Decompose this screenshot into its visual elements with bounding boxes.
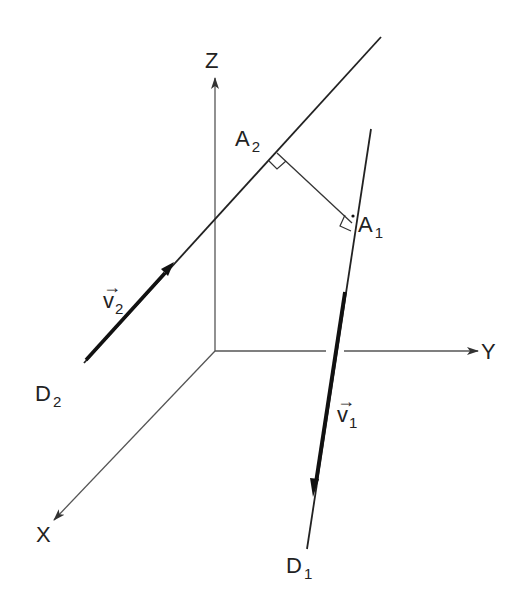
line-d2 <box>84 37 381 363</box>
vector-v1-segment <box>316 292 345 482</box>
vector-v1-label: →v1 <box>337 404 357 426</box>
vector-v2-segment <box>86 273 165 360</box>
vector-v2-label: →v2 <box>103 290 123 312</box>
diagram-svg <box>0 0 521 608</box>
point-a1-label: A1 <box>358 214 383 236</box>
y-axis-label: Y <box>481 341 496 363</box>
z-axis-label: Z <box>205 50 218 72</box>
diagram-canvas: Z Y X A2 A1 D2 D1 →v2 →v1 <box>0 0 521 608</box>
right-angle-marker-a2 <box>269 161 286 169</box>
x-axis <box>54 351 215 520</box>
x-axis-label: X <box>36 524 51 546</box>
line-d1 <box>307 129 371 549</box>
line-d2-label: D2 <box>35 383 61 405</box>
common-perpendicular <box>269 153 355 231</box>
point-a2-label: A2 <box>235 128 260 150</box>
vector-arrow-icon: → <box>337 392 355 410</box>
point-a1-dot <box>351 214 354 217</box>
line-d1-label: D1 <box>286 555 312 577</box>
vector-arrow-icon: → <box>103 278 121 296</box>
